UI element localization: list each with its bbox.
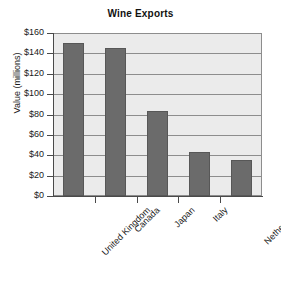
y-axis-tick <box>47 115 53 116</box>
y-axis-tick-label: $0 <box>4 190 44 200</box>
wine-exports-bar-chart: Wine Exports Value (millions) $160$140$1… <box>0 0 281 288</box>
gridline <box>54 74 261 75</box>
bar <box>189 152 210 196</box>
y-axis-tick <box>47 155 53 156</box>
x-axis-tick <box>137 197 138 203</box>
y-axis-tick <box>47 74 53 75</box>
gridline <box>54 94 261 95</box>
y-axis-tick-label: $20 <box>4 170 44 180</box>
y-axis-line <box>53 33 54 197</box>
bar <box>231 160 252 196</box>
y-axis-tick <box>47 53 53 54</box>
y-axis-tick <box>47 196 53 197</box>
x-axis-tick <box>220 197 221 203</box>
y-axis-tick <box>47 94 53 95</box>
y-axis-tick-label: $80 <box>4 109 44 119</box>
y-axis-tick-label: $60 <box>4 129 44 139</box>
y-axis-tick-label: $120 <box>4 68 44 78</box>
y-axis-tick-label: $140 <box>4 47 44 57</box>
gridline <box>54 53 261 54</box>
bar <box>63 43 84 196</box>
x-axis-tick <box>178 197 179 203</box>
y-axis-title: Value (millions) <box>12 23 22 143</box>
y-axis-tick-label: $100 <box>4 88 44 98</box>
bar <box>105 48 126 196</box>
y-axis-tick <box>47 33 53 34</box>
x-axis-category-label: Netherlands <box>262 205 281 246</box>
x-axis-tick <box>95 197 96 203</box>
x-axis-line <box>53 196 263 197</box>
y-axis-tick <box>47 176 53 177</box>
x-axis-category-label: Japan <box>172 205 196 229</box>
y-axis-tick-label: $40 <box>4 149 44 159</box>
x-axis-category-label: Italy <box>211 205 230 224</box>
x-axis-category-label: United Kingdom <box>100 205 152 257</box>
chart-title: Wine Exports <box>0 8 281 19</box>
y-axis-tick-label: $160 <box>4 27 44 37</box>
bar <box>147 111 168 196</box>
y-axis-tick <box>47 135 53 136</box>
